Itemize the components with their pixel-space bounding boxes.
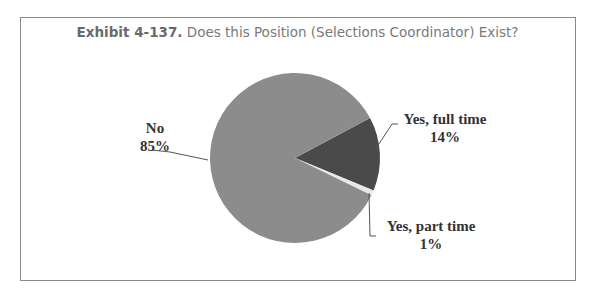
pie-chart (0, 0, 595, 299)
leader-part-time (369, 193, 376, 236)
label-full-time: Yes, full time 14% (395, 110, 495, 146)
label-no-value: 85% (125, 137, 185, 155)
label-part-time: Yes, part time 1% (376, 217, 486, 253)
label-full-time-name: Yes, full time (395, 110, 495, 128)
label-full-time-value: 14% (395, 128, 495, 146)
label-part-time-value: 1% (376, 235, 486, 253)
label-no: No 85% (125, 119, 185, 155)
label-part-time-name: Yes, part time (376, 217, 486, 235)
label-no-name: No (125, 119, 185, 137)
